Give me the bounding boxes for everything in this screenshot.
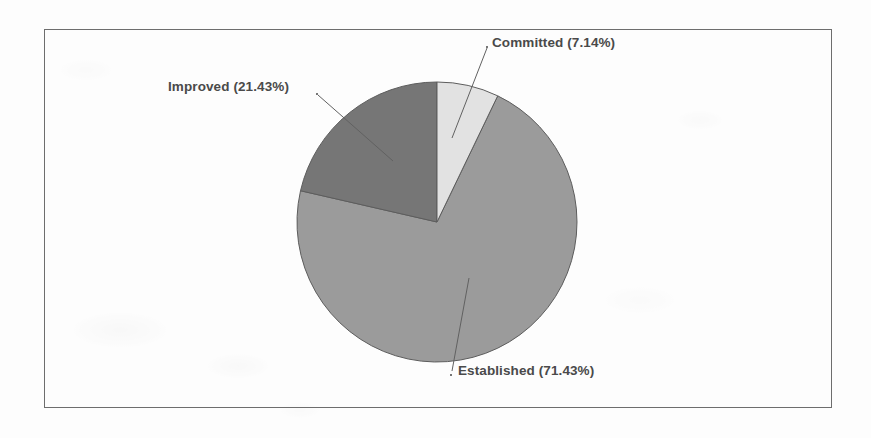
- slice-label-established: Established (71.43%): [458, 363, 594, 378]
- leader-endpoint-dot-improved: [316, 93, 318, 95]
- slice-label-improved: Improved (21.43%): [168, 79, 289, 94]
- leader-endpoint-dot-committed: [486, 46, 488, 48]
- pie-chart-graphic: [0, 0, 871, 438]
- slice-label-committed: Committed (7.14%): [492, 35, 615, 50]
- leader-endpoint-dot-established: [450, 374, 452, 376]
- pie-chart-figure: Committed (7.14%) Improved (21.43%) Esta…: [0, 0, 871, 438]
